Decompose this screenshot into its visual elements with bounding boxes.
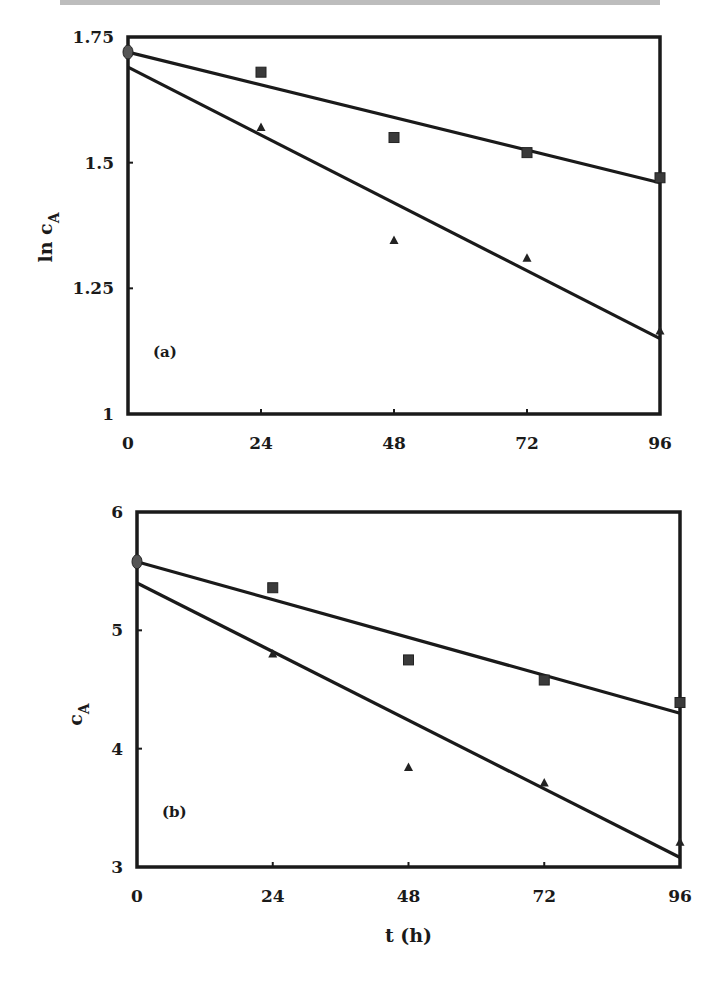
x-tick-label: 72 (532, 886, 556, 906)
data-point-square (539, 675, 549, 685)
x-axis-title: t (h) (385, 924, 432, 946)
data-point-square (675, 698, 685, 708)
x-tick-label: 24 (261, 886, 285, 906)
y-axis-title: cA (64, 702, 92, 726)
data-point-square (268, 583, 278, 593)
x-tick-label: 48 (382, 433, 406, 453)
figure: 02448729611.251.51.75ln cA(a) 0244872963… (0, 0, 721, 981)
y-axis-title-subscript: A (46, 211, 62, 224)
y-tick-label: 1.25 (73, 278, 114, 298)
x-tick-label: 96 (648, 433, 672, 453)
fit-line-squares (137, 562, 680, 713)
panel-label: (a) (153, 343, 177, 361)
data-point-square (389, 133, 399, 143)
y-tick-label: 1.5 (84, 153, 114, 173)
data-point-triangle (390, 236, 399, 245)
y-axis-title-main: c (64, 714, 86, 726)
data-point-triangle (676, 837, 685, 846)
y-tick-label: 1.75 (73, 27, 114, 47)
y-tick-label: 5 (111, 620, 123, 640)
chart-panel-b: 0244872963456cAt (h)(b) (64, 502, 692, 946)
x-tick-label: 0 (122, 433, 134, 453)
data-point-triangle (404, 763, 413, 772)
y-tick-label: 3 (111, 857, 123, 877)
y-axis-title-subscript: A (76, 702, 92, 715)
chart-panel-a: 02448729611.251.51.75ln cA(a) (34, 27, 672, 453)
y-axis-title: ln cA (34, 211, 62, 262)
fit-line-triangles (128, 67, 660, 338)
data-point-triangle (257, 122, 266, 130)
y-axis-title-main: ln c (34, 223, 56, 262)
data-point-triangle (523, 253, 532, 262)
cropped-text-fragment (60, 0, 660, 5)
x-tick-label: 96 (668, 886, 692, 906)
y-tick-label: 1 (102, 404, 114, 424)
x-tick-label: 0 (131, 886, 143, 906)
data-point-triangle (656, 326, 665, 335)
x-tick-label: 72 (515, 433, 539, 453)
fit-line-triangles (137, 583, 680, 858)
data-point-square (256, 67, 266, 77)
y-tick-label: 6 (111, 502, 123, 522)
plot-frame (128, 37, 660, 414)
data-point-origin (123, 45, 133, 59)
data-point-square (655, 173, 665, 183)
data-point-square (404, 655, 414, 665)
x-tick-label: 24 (249, 433, 273, 453)
data-point-triangle (540, 778, 549, 787)
y-tick-label: 4 (111, 739, 123, 759)
x-tick-label: 48 (397, 886, 421, 906)
data-point-square (522, 148, 532, 158)
data-point-origin (132, 555, 142, 569)
fit-line-squares (128, 52, 660, 183)
panel-label: (b) (162, 803, 187, 821)
